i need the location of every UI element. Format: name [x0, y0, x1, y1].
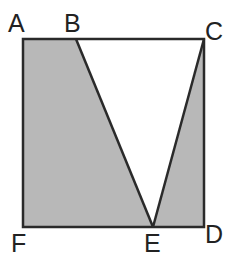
geometry-diagram: A B C D E F	[0, 0, 230, 258]
vertex-label-b: B	[64, 9, 81, 37]
vertex-label-e: E	[144, 229, 161, 257]
vertex-label-a: A	[8, 9, 25, 37]
vertex-label-f: F	[11, 229, 26, 257]
vertex-label-d: D	[205, 220, 223, 248]
vertex-label-c: C	[205, 17, 223, 45]
